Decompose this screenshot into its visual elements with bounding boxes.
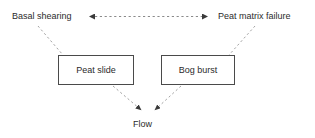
flow-diagram: Basal shearing Peat matrix failure Peat … xyxy=(0,0,315,138)
connector-basal-shearing-to-peat-slide xyxy=(38,26,63,55)
node-bog-burst-label: Bog burst xyxy=(179,65,218,75)
label-basal-shearing: Basal shearing xyxy=(12,11,72,22)
connector-peat-slide-to-flow xyxy=(113,86,140,109)
node-bog-burst[interactable]: Bog burst xyxy=(161,55,235,85)
node-peat-slide[interactable]: Peat slide xyxy=(58,55,134,85)
label-peat-matrix-failure: Peat matrix failure xyxy=(218,11,291,22)
node-peat-slide-label: Peat slide xyxy=(76,65,116,75)
connector-bog-burst-to-flow xyxy=(156,86,181,109)
connector-peat-matrix-failure-to-bog-burst xyxy=(229,26,255,55)
label-flow: Flow xyxy=(133,119,152,130)
